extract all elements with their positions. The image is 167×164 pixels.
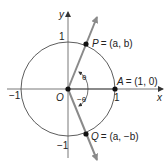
point-Q-label: Q= (a, −b) <box>91 131 139 142</box>
unit-circle-diagram: y x O 1 −1 1 −1 θ −θ P= (a, b) A= (1, 0)… <box>0 0 167 164</box>
origin-label: O <box>56 92 64 103</box>
point-A-label: A= (1, 0) <box>116 76 158 87</box>
tick-y-neg: −1 <box>57 140 69 151</box>
point-P <box>83 41 88 46</box>
point-A <box>112 86 117 91</box>
x-axis-label: x <box>156 92 163 103</box>
tick-y-pos: 1 <box>59 31 65 42</box>
point-Q <box>83 131 88 136</box>
point-origin <box>65 86 70 91</box>
tick-x-neg: −1 <box>9 90 21 101</box>
angle-theta-label: θ <box>82 73 87 82</box>
angle-neg-theta-label: −θ <box>77 95 87 104</box>
y-axis-label: y <box>58 9 65 20</box>
tick-x-pos: 1 <box>114 92 120 103</box>
point-P-label: P= (a, b) <box>92 38 133 49</box>
